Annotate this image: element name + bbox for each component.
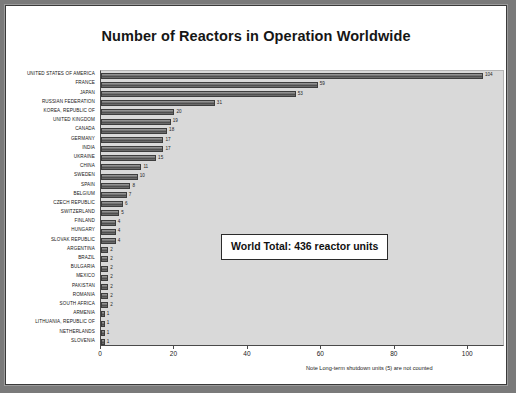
bar-row: 2 bbox=[101, 301, 503, 310]
x-axis-tick bbox=[173, 346, 174, 349]
category-label: NETHERLANDS bbox=[6, 327, 98, 336]
category-label: JAPAN bbox=[6, 88, 98, 97]
category-label: INDIA bbox=[6, 144, 98, 153]
bar bbox=[101, 229, 116, 235]
bar bbox=[101, 247, 108, 253]
bar-value-label: 59 bbox=[320, 82, 325, 87]
category-label: CZECH REPUBLIC bbox=[6, 199, 98, 208]
bar-value-label: 1 bbox=[107, 312, 110, 317]
bar-row: 8 bbox=[101, 181, 503, 190]
plot-area: 1045953312019181717151110876544422222221… bbox=[100, 70, 504, 346]
bar-row: 2 bbox=[101, 273, 503, 282]
bar bbox=[101, 311, 105, 317]
bar-row: 5 bbox=[101, 209, 503, 218]
category-label: FRANCE bbox=[6, 79, 98, 88]
category-label: CHINA bbox=[6, 162, 98, 171]
bar bbox=[101, 238, 116, 244]
x-axis-tick-label: 80 bbox=[390, 350, 397, 357]
bar-row: 1 bbox=[101, 310, 503, 319]
bar-value-label: 17 bbox=[165, 146, 170, 151]
bar-value-label: 2 bbox=[110, 293, 113, 298]
category-label: ARGENTINA bbox=[6, 245, 98, 254]
bar bbox=[101, 155, 156, 161]
category-label: KOREA, REPUBLIC OF bbox=[6, 107, 98, 116]
bar bbox=[101, 164, 141, 170]
category-label: HUNGARY bbox=[6, 226, 98, 235]
bar-row: 4 bbox=[101, 218, 503, 227]
x-axis-tick bbox=[320, 346, 321, 349]
bar bbox=[101, 302, 108, 308]
bar-value-label: 6 bbox=[125, 201, 128, 206]
footnote: Note Long-term shutdown units (5) are no… bbox=[306, 365, 433, 371]
bar-value-label: 2 bbox=[110, 275, 113, 280]
bar bbox=[101, 293, 108, 299]
bar-value-label: 4 bbox=[118, 220, 121, 225]
category-label: LITHUANIA, REPUBLIC OF bbox=[6, 318, 98, 327]
category-label: SLOVENIA bbox=[6, 336, 98, 345]
bar-series: 1045953312019181717151110876544422222221… bbox=[101, 71, 503, 345]
x-axis-tick bbox=[394, 346, 395, 349]
bar-value-label: 2 bbox=[110, 247, 113, 252]
bar-row: 31 bbox=[101, 99, 503, 108]
bar bbox=[101, 284, 108, 290]
category-label: RUSSIAN FEDERATION bbox=[6, 98, 98, 107]
category-label: BELGIUM bbox=[6, 189, 98, 198]
bar-row: 1 bbox=[101, 328, 503, 337]
bar bbox=[101, 266, 108, 272]
x-axis-tick-label: 40 bbox=[243, 350, 250, 357]
category-label: FINLAND bbox=[6, 217, 98, 226]
x-axis-tick bbox=[467, 346, 468, 349]
bar bbox=[101, 100, 215, 106]
category-label: CANADA bbox=[6, 125, 98, 134]
bar-row: 53 bbox=[101, 89, 503, 98]
bar bbox=[101, 137, 163, 143]
bar bbox=[101, 146, 163, 152]
bar-value-label: 17 bbox=[165, 137, 170, 142]
bar bbox=[101, 339, 105, 345]
category-label: UNITED KINGDOM bbox=[6, 116, 98, 125]
x-axis-tick-label: 0 bbox=[98, 350, 102, 357]
bar-value-label: 2 bbox=[110, 266, 113, 271]
bar-row: 104 bbox=[101, 71, 503, 80]
bar-value-label: 7 bbox=[129, 192, 132, 197]
bar-row: 15 bbox=[101, 154, 503, 163]
bar-value-label: 19 bbox=[173, 119, 178, 124]
bar bbox=[101, 82, 318, 88]
bar bbox=[101, 210, 119, 216]
bar-value-label: 5 bbox=[121, 211, 124, 216]
bar-value-label: 1 bbox=[107, 330, 110, 335]
x-axis-tick-label: 20 bbox=[170, 350, 177, 357]
x-axis-tick bbox=[100, 346, 101, 349]
bar-row: 19 bbox=[101, 117, 503, 126]
category-label: SLOVAK REPUBLIC bbox=[6, 235, 98, 244]
bar-value-label: 1 bbox=[107, 321, 110, 326]
bar-row: 2 bbox=[101, 292, 503, 301]
x-axis-tick bbox=[247, 346, 248, 349]
bar-row: 11 bbox=[101, 163, 503, 172]
bar-value-label: 53 bbox=[298, 91, 303, 96]
bar-value-label: 104 bbox=[485, 73, 493, 78]
bar bbox=[101, 256, 108, 262]
category-label: UKRAINE bbox=[6, 153, 98, 162]
bar-row: 6 bbox=[101, 200, 503, 209]
bar-value-label: 1 bbox=[107, 339, 110, 344]
category-label: ROMANIA bbox=[6, 291, 98, 300]
bar-row: 17 bbox=[101, 135, 503, 144]
bar-row: 2 bbox=[101, 264, 503, 273]
x-axis-tick-label: 60 bbox=[317, 350, 324, 357]
bar-value-label: 4 bbox=[118, 229, 121, 234]
bar-value-label: 10 bbox=[140, 174, 145, 179]
bar-value-label: 2 bbox=[110, 302, 113, 307]
bar bbox=[101, 183, 130, 189]
bar-value-label: 11 bbox=[143, 165, 148, 170]
x-axis: 020406080100 bbox=[100, 346, 504, 362]
page-title: Number of Reactors in Operation Worldwid… bbox=[6, 28, 506, 44]
bar bbox=[101, 91, 296, 97]
category-label: BULGARIA bbox=[6, 263, 98, 272]
category-label: SPAIN bbox=[6, 180, 98, 189]
category-label: SOUTH AFRICA bbox=[6, 300, 98, 309]
bar bbox=[101, 275, 108, 281]
x-axis-tick-label: 100 bbox=[462, 350, 473, 357]
bar bbox=[101, 109, 174, 115]
category-label: BRAZIL bbox=[6, 254, 98, 263]
